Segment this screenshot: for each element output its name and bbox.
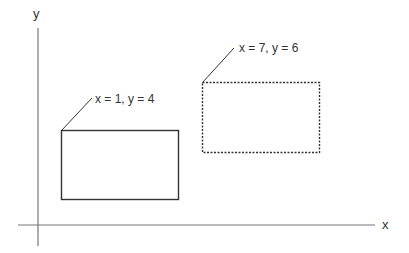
x-axis-label: x [382,217,389,232]
y-axis-label: y [33,6,40,21]
coordinate-diagram: y x x = 1, y = 4 x = 7, y = 6 [0,0,409,253]
dashed-rectangle-leader-line [203,48,235,83]
solid-rectangle-leader-line [62,98,93,131]
dashed-rectangle-label: x = 7, y = 6 [239,41,299,55]
dashed-rectangle [203,83,320,153]
solid-rectangle [62,131,179,200]
solid-rectangle-label: x = 1, y = 4 [95,92,155,106]
